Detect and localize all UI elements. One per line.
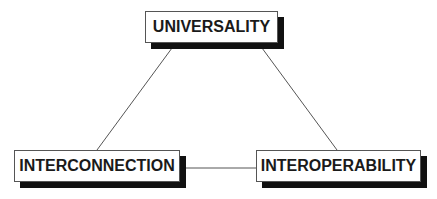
node-label: INTEROPERABILITY xyxy=(261,157,417,175)
edge-universality-interoperability xyxy=(262,48,337,150)
concept-diagram: UNIVERSALITY INTERCONNECTION INTEROPERAB… xyxy=(0,0,437,199)
edge-universality-interconnection xyxy=(97,48,172,150)
node-universality: UNIVERSALITY xyxy=(145,11,278,43)
node-interconnection: INTERCONNECTION xyxy=(14,150,180,182)
node-label: UNIVERSALITY xyxy=(153,18,270,36)
node-label: INTERCONNECTION xyxy=(19,157,175,175)
node-interoperability: INTEROPERABILITY xyxy=(256,150,421,182)
